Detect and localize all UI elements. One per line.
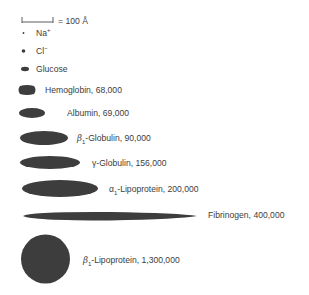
fibrinogen-shape bbox=[23, 212, 197, 221]
beta1-globulin-shape bbox=[20, 131, 68, 145]
alpha1-lipoprotein-shape bbox=[22, 180, 98, 197]
glucose-ellipse bbox=[21, 67, 29, 71]
gamma-globulin-shape bbox=[20, 156, 80, 169]
cl-ion-dot bbox=[22, 49, 26, 53]
hemoglobin-label: Hemoglobin, 68,000 bbox=[45, 86, 122, 95]
legend-cl-label: Cl bbox=[36, 46, 44, 56]
hemoglobin-shape bbox=[19, 85, 36, 95]
legend-na: Na+ bbox=[36, 29, 51, 38]
albumin-label: Albumin, 69,000 bbox=[67, 109, 129, 118]
legend-na-charge: + bbox=[47, 27, 51, 33]
legend-glucose: Glucose bbox=[36, 65, 68, 74]
alpha1-lipoprotein-label: α1-Lipoprotein, 200,000 bbox=[109, 185, 199, 194]
beta1-lipoprotein-shape bbox=[21, 235, 70, 284]
beta1-globulin-label: β1-Globulin, 90,000 bbox=[77, 134, 151, 143]
legend-na-label: Na bbox=[36, 28, 47, 38]
albumin-shape bbox=[19, 108, 45, 118]
scale-bar-label: = 100 Å bbox=[58, 17, 88, 26]
beta1-lipoprotein-label: β1-Lipoprotein, 1,300,000 bbox=[83, 256, 180, 265]
scale-bar bbox=[22, 17, 53, 23]
legend-cl: Cl− bbox=[36, 47, 48, 56]
gamma-globulin-label: γ-Globulin, 156,000 bbox=[92, 159, 167, 168]
na-ion-dot bbox=[23, 32, 25, 34]
fibrinogen-label: Fibrinogen, 400,000 bbox=[208, 211, 284, 220]
legend-cl-charge: − bbox=[44, 45, 48, 51]
